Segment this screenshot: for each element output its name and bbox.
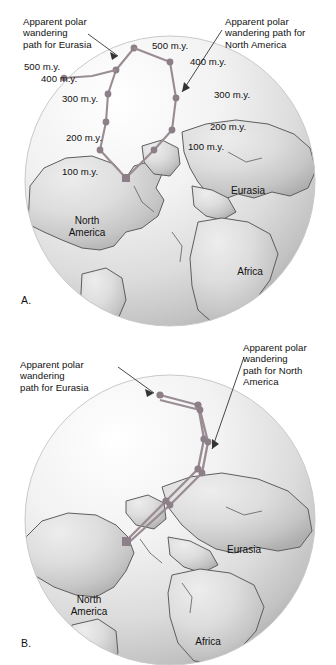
- age-label-na-200-a: 200 m.y.: [210, 122, 246, 132]
- continent-label-eurasia-b: Eurasia: [212, 544, 276, 556]
- panel-a: Apparent polar wandering path for Eurasi…: [0, 0, 336, 332]
- marker-na-200: [169, 127, 176, 134]
- continent-label-eurasia-a: Eurasia: [216, 185, 280, 197]
- marker-na-100-b: [167, 502, 174, 509]
- marker-eurasia-200: [103, 119, 110, 126]
- continent-label-north-america-a: North America: [52, 215, 122, 238]
- continent-label-africa-b: Africa: [180, 636, 236, 648]
- marker-na-400-b: [197, 407, 204, 414]
- globe-b-svg: [22, 375, 322, 665]
- globe-b: [22, 375, 322, 665]
- age-label-eurasia-200-a: 200 m.y.: [66, 133, 102, 143]
- north-america-callout-b: Apparent polar wandering path for North …: [243, 342, 335, 388]
- marker-na-400: [167, 59, 174, 66]
- marker-eurasia-300: [105, 91, 112, 98]
- age-label-eurasia-500-a: 500 m.y.: [24, 62, 60, 72]
- age-label-eurasia-100-a: 100 m.y.: [62, 167, 98, 177]
- panel-b: Apparent polar wandering path for Eurasi…: [0, 331, 336, 663]
- age-label-na-100-a: 100 m.y.: [188, 142, 224, 152]
- eurasia-callout-b: Apparent polar wandering path for Eurasi…: [20, 359, 132, 393]
- age-label-eurasia-300-a: 300 m.y.: [62, 94, 98, 104]
- eurasia-callout-a: Apparent polar wandering path for Eurasi…: [23, 16, 135, 50]
- age-label-na-300-a: 300 m.y.: [214, 90, 250, 100]
- marker-na-200-b: [199, 470, 206, 477]
- marker-na-300: [173, 95, 180, 102]
- marker-na-300-b: [205, 439, 212, 446]
- marker-present-pole-a: [122, 174, 130, 182]
- marker-na-100: [151, 147, 158, 154]
- continent-label-africa-a: Africa: [222, 266, 278, 278]
- age-label-na-500-a: 500 m.y.: [152, 41, 188, 51]
- marker-present-pole-b: [122, 537, 131, 546]
- north-america-callout-a: Apparent polar wandering path for North …: [225, 16, 335, 50]
- age-label-na-400-a: 400 m.y.: [190, 57, 226, 67]
- panel-letter-a: A.: [21, 294, 32, 306]
- continent-label-north-america-b: North America: [54, 594, 124, 617]
- marker-eurasia-500-b: [156, 391, 163, 398]
- panel-letter-b: B.: [21, 637, 32, 649]
- marker-eurasia-100: [97, 147, 104, 154]
- landmass-south-america: [80, 268, 126, 328]
- age-label-eurasia-400-a: 400 m.y.: [41, 74, 77, 84]
